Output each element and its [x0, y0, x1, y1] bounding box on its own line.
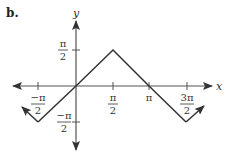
svg-text:2: 2 — [184, 105, 190, 116]
y-axis-label: y — [72, 7, 80, 20]
x-tick-label-pi: π — [146, 92, 153, 103]
svg-text:2: 2 — [110, 105, 116, 116]
svg-text:2: 2 — [35, 105, 41, 116]
svg-text:3π: 3π — [181, 92, 194, 103]
svg-text:−π: −π — [31, 92, 46, 103]
svg-text:π: π — [110, 92, 117, 103]
svg-text:−π: −π — [57, 110, 72, 121]
graph: x y −π 2 π 2 π 3π 2 π 2 −π 2 — [0, 0, 232, 158]
x-axis-label: x — [216, 80, 223, 93]
y-tick-label-pi-over-2: π 2 — [58, 38, 68, 62]
y-tick-label-neg-pi-over-2: −π 2 — [57, 110, 72, 134]
svg-text:2: 2 — [61, 123, 67, 134]
x-tick-label-3pi-over-2: 3π 2 — [180, 92, 194, 116]
svg-text:π: π — [60, 38, 67, 49]
svg-text:2: 2 — [60, 51, 66, 62]
x-tick-label-pi-over-2: π 2 — [108, 92, 118, 116]
svg-text:π: π — [146, 92, 153, 103]
x-tick-label-neg-pi-over-2: −π 2 — [31, 92, 46, 116]
